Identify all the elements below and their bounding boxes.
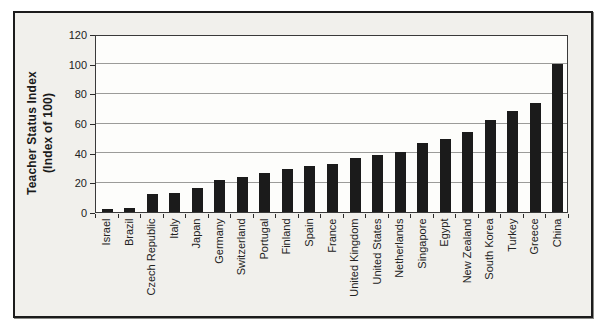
x-tick-label-finland: Finland	[279, 218, 294, 310]
bar-new-zealand	[462, 132, 473, 212]
gridline-60	[96, 123, 567, 124]
y-tick-mark	[90, 183, 95, 184]
bar-china	[552, 64, 563, 212]
x-tick-mark	[118, 214, 119, 218]
x-tick-label-brazil: Brazil	[121, 218, 136, 310]
x-tick-mark	[185, 214, 186, 218]
x-tick-label-czech-republic: Czech Republic	[144, 218, 159, 310]
x-tick-mark	[343, 214, 344, 218]
bar-singapore	[417, 143, 428, 212]
y-tick-mark	[90, 65, 95, 66]
bar-france	[327, 164, 338, 212]
x-tick-mark	[455, 214, 456, 218]
x-tick-mark	[253, 214, 254, 218]
y-tick-label-80: 80	[57, 87, 87, 101]
y-axis-title: Teacher Status Index (Index of 100)	[24, 38, 58, 228]
bar-switzerland	[237, 177, 248, 212]
x-tick-label-japan: Japan	[189, 218, 204, 310]
x-tick-label-greece: Greece	[527, 218, 542, 310]
bar-greece	[530, 103, 541, 212]
y-tick-mark	[90, 94, 95, 95]
x-tick-mark	[388, 214, 389, 218]
y-tick-mark	[90, 35, 95, 36]
bar-turkey	[507, 111, 518, 212]
y-tick-mark	[90, 154, 95, 155]
x-tick-label-germany: Germany	[211, 218, 226, 310]
x-tick-mark	[545, 214, 546, 218]
gridline-100	[96, 63, 567, 64]
x-tick-label-new-zealand: New Zealand	[459, 218, 474, 310]
x-tick-label-switzerland: Switzerland	[234, 218, 249, 310]
x-tick-mark	[478, 214, 479, 218]
bar-netherlands	[395, 152, 406, 212]
bar-portugal	[259, 173, 270, 212]
x-tick-label-israel: Israel	[99, 218, 114, 310]
x-tick-mark	[275, 214, 276, 218]
y-axis-title-line1: Teacher Status Index	[24, 38, 40, 228]
bar-south-korea	[485, 120, 496, 212]
bar-united-states	[372, 155, 383, 212]
y-axis-title-line2: (Index of 100)	[40, 38, 56, 228]
x-tick-label-france: France	[324, 218, 339, 310]
x-tick-mark	[230, 214, 231, 218]
x-tick-label-spain: Spain	[301, 218, 316, 310]
y-tick-label-20: 20	[57, 176, 87, 190]
bar-czech-republic	[147, 194, 158, 212]
x-tick-label-egypt: Egypt	[437, 218, 452, 310]
y-tick-label-60: 60	[57, 117, 87, 131]
bar-israel	[102, 209, 113, 212]
x-tick-mark	[320, 214, 321, 218]
x-tick-mark	[568, 214, 569, 218]
x-tick-mark	[95, 214, 96, 218]
x-tick-label-south-korea: South Korea	[482, 218, 497, 310]
x-tick-mark	[163, 214, 164, 218]
gridline-40	[96, 152, 567, 153]
gridline-80	[96, 93, 567, 94]
y-tick-label-100: 100	[57, 58, 87, 72]
x-tick-label-united-kingdom: United Kingdom	[347, 218, 362, 310]
x-tick-label-turkey: Turkey	[504, 218, 519, 310]
y-tick-label-120: 120	[57, 28, 87, 42]
chart-frame: Teacher Status Index (Index of 100) 0204…	[13, 11, 593, 318]
x-tick-mark	[365, 214, 366, 218]
bar-japan	[192, 188, 203, 212]
bar-finland	[282, 169, 293, 212]
x-tick-label-portugal: Portugal	[256, 218, 271, 310]
y-tick-label-40: 40	[57, 147, 87, 161]
y-tick-mark	[90, 124, 95, 125]
x-tick-mark	[410, 214, 411, 218]
bar-united-kingdom	[350, 158, 361, 212]
x-tick-mark	[140, 214, 141, 218]
bar-italy	[169, 193, 180, 212]
bar-spain	[304, 166, 315, 212]
x-tick-mark	[298, 214, 299, 218]
x-tick-label-italy: Italy	[166, 218, 181, 310]
bar-brazil	[124, 208, 135, 212]
bar-germany	[214, 180, 225, 212]
x-tick-label-china: China	[549, 218, 564, 310]
x-tick-mark	[208, 214, 209, 218]
bar-egypt	[440, 139, 451, 212]
x-tick-label-netherlands: Netherlands	[392, 218, 407, 310]
y-tick-label-0: 0	[57, 206, 87, 220]
plot-area	[95, 35, 568, 213]
x-tick-mark	[433, 214, 434, 218]
x-tick-label-united-states: United States	[369, 218, 384, 310]
x-tick-mark	[500, 214, 501, 218]
x-tick-mark	[523, 214, 524, 218]
x-tick-label-singapore: Singapore	[414, 218, 429, 310]
